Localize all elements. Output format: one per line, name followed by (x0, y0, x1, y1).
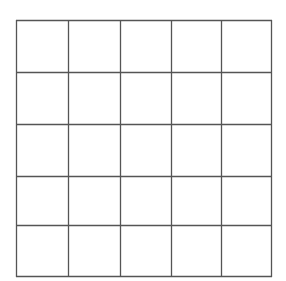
grid-cell (171, 124, 221, 176)
grid-cell (221, 20, 271, 72)
grid-cell (171, 72, 221, 124)
grid-cell (68, 20, 120, 72)
grid-cell (171, 20, 221, 72)
grid-cell (120, 225, 171, 276)
grid-cell (120, 176, 171, 225)
grid-cell (16, 72, 68, 124)
grid-cell (16, 176, 68, 225)
grid-cell (68, 124, 120, 176)
grid-cell (120, 72, 171, 124)
grid-cell (16, 20, 68, 72)
grid-cell (68, 72, 120, 124)
grid-cell (221, 225, 271, 276)
grid-cell (120, 124, 171, 176)
grid-cell (120, 20, 171, 72)
grid-cell (221, 72, 271, 124)
grid-cell (171, 225, 221, 276)
grid-cell (221, 176, 271, 225)
grid-cell (16, 124, 68, 176)
grid-cell (171, 176, 221, 225)
grid-cell (221, 124, 271, 176)
grid-cell (16, 225, 68, 276)
grid-cell (68, 176, 120, 225)
grid-cell (68, 225, 120, 276)
empty-5x5-grid (0, 0, 286, 281)
